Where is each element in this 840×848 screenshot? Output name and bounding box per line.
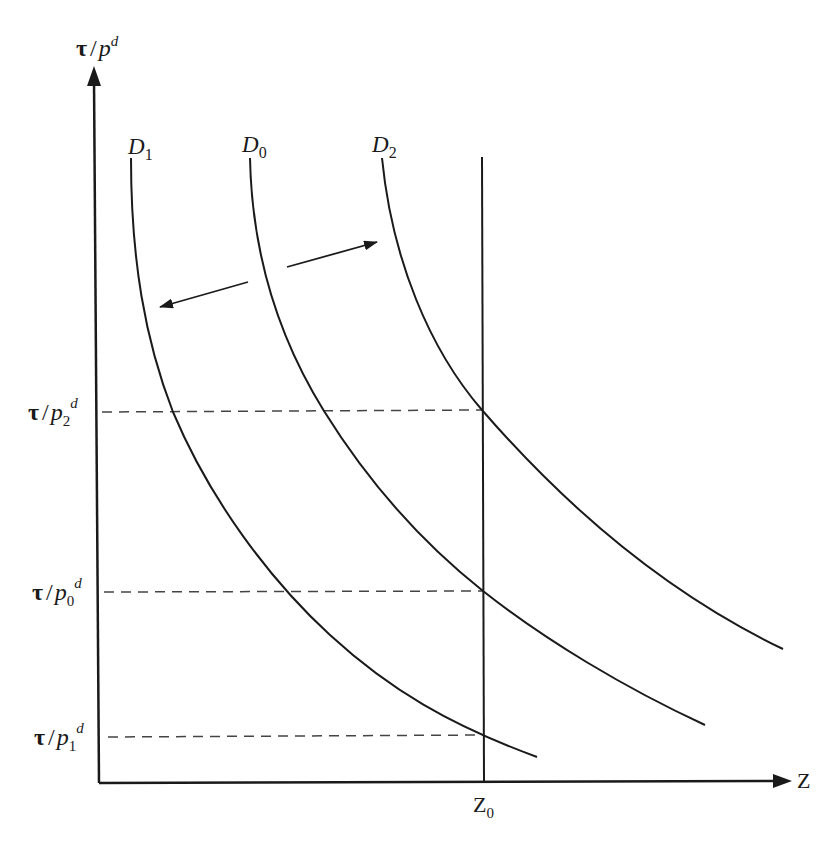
label-tau-p2: τ/p2d — [28, 395, 78, 429]
dashed-level-p1 — [108, 735, 483, 737]
x-axis — [99, 781, 776, 783]
shift-right-arrow — [287, 242, 377, 267]
y-axis-label: τ/pd — [76, 33, 119, 61]
label-z0: Z0 — [473, 792, 494, 821]
x-axis-label: Z — [797, 768, 810, 793]
z0-vertical-line — [482, 157, 484, 782]
y-axis-arrow-icon — [87, 66, 101, 86]
shift-left-arrow — [160, 282, 248, 307]
label-tau-p0: τ/p0d — [32, 575, 82, 609]
dashed-level-p0 — [104, 591, 483, 592]
label-d0: D0 — [241, 132, 267, 161]
dashed-level-p2 — [102, 410, 482, 412]
demand-curve-diagram: τ/pd D1 D0 D2 τ/p2d τ/p0d τ/p1d Z Z0 — [0, 0, 840, 848]
curve-d0 — [250, 158, 705, 725]
label-d1: D1 — [127, 134, 153, 163]
label-tau-p1: τ/p1d — [34, 720, 84, 754]
label-d2: D2 — [371, 132, 397, 161]
diagram-canvas: τ/pd D1 D0 D2 τ/p2d τ/p0d τ/p1d Z Z0 — [0, 0, 840, 848]
curve-d2 — [382, 158, 783, 649]
y-axis — [94, 80, 99, 783]
curve-d1 — [131, 158, 537, 757]
x-axis-arrow-icon — [773, 774, 792, 788]
